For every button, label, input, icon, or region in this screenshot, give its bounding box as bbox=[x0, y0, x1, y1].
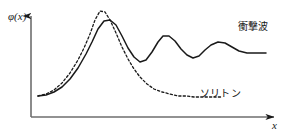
shock-wave-label: 衝撃波 bbox=[238, 22, 269, 32]
shock-wave-curve bbox=[38, 20, 266, 96]
physics-waveform-figure: φ(x) x 衝撃波 ソリトン bbox=[0, 0, 291, 136]
y-axis-label: φ(x) bbox=[8, 11, 26, 22]
soliton-label: ソリトン bbox=[200, 89, 241, 99]
x-axis-label: x bbox=[272, 120, 277, 131]
